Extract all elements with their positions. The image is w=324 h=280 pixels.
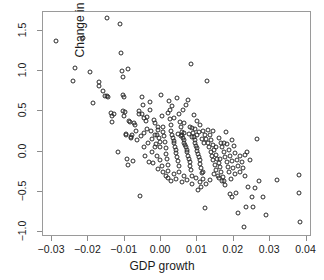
data-point: [188, 168, 193, 173]
data-point: [168, 122, 173, 127]
data-point: [207, 177, 212, 182]
data-point: [122, 110, 127, 115]
x-axis-tick: [51, 236, 52, 241]
data-point: [90, 101, 95, 106]
x-axis-tick: [160, 236, 161, 241]
data-point: [175, 96, 180, 101]
data-point: [274, 177, 279, 182]
data-point: [120, 74, 125, 79]
x-axis-tick-label: −0.03: [38, 243, 65, 255]
data-point: [230, 138, 235, 143]
data-point: [202, 205, 207, 210]
data-point: [223, 182, 228, 187]
data-point: [157, 139, 162, 144]
x-axis-tick-label: 0.03: [259, 243, 280, 255]
data-point: [159, 114, 164, 119]
data-point: [160, 124, 165, 129]
data-point: [167, 98, 172, 103]
data-point: [140, 94, 145, 99]
data-point: [172, 115, 177, 120]
data-point: [198, 122, 203, 127]
data-point: [161, 169, 166, 174]
data-point: [162, 134, 167, 139]
data-point: [167, 107, 172, 112]
data-point: [119, 51, 124, 56]
data-point: [183, 102, 188, 107]
data-point: [200, 170, 205, 175]
data-point: [156, 125, 161, 130]
y-axis-tick: [37, 151, 42, 152]
data-point: [158, 158, 163, 163]
data-point: [226, 147, 231, 152]
data-point: [119, 68, 124, 73]
data-point: [159, 93, 164, 98]
data-point: [204, 79, 209, 84]
data-point: [150, 149, 155, 154]
data-point: [125, 163, 130, 168]
y-axis-tick: [37, 70, 42, 71]
y-axis-tick-label: 1.5: [16, 22, 28, 37]
data-point: [241, 166, 246, 171]
data-point: [162, 139, 167, 144]
y-axis-tick: [37, 191, 42, 192]
y-axis-label-wrapper: Change in rate: [9, 11, 23, 236]
data-point: [236, 210, 241, 215]
data-point: [188, 61, 193, 66]
data-point: [143, 153, 148, 158]
data-point: [245, 185, 250, 190]
data-point: [234, 191, 239, 196]
data-point: [297, 190, 302, 195]
data-point: [105, 15, 110, 20]
data-point: [223, 130, 228, 135]
x-axis-tick: [196, 236, 197, 241]
data-point: [228, 176, 233, 181]
data-point: [244, 205, 249, 210]
y-axis-tick: [37, 30, 42, 31]
data-point: [231, 143, 236, 148]
data-point: [210, 128, 215, 133]
data-point: [122, 95, 127, 100]
data-point: [133, 129, 138, 134]
data-point: [257, 178, 262, 183]
data-point: [298, 220, 303, 225]
data-point: [242, 224, 247, 229]
x-axis-label: GDP growth: [0, 259, 324, 273]
x-axis-tick: [233, 236, 234, 241]
data-point: [151, 160, 156, 165]
data-point: [130, 159, 135, 164]
data-point: [260, 194, 265, 199]
data-point: [146, 141, 151, 146]
data-point: [202, 141, 207, 146]
y-axis-tick-label: 0.0: [16, 143, 28, 158]
data-point: [239, 160, 244, 165]
scatter-plot-figure: GDP growth Change in rate −0.03−0.02−0.0…: [0, 0, 324, 280]
y-axis-tick-label: 1.0: [16, 63, 28, 78]
data-point: [244, 149, 249, 154]
data-point: [140, 102, 145, 107]
x-axis-tick: [124, 236, 125, 241]
x-axis-tick-label: 0.02: [222, 243, 243, 255]
y-axis-tick: [37, 110, 42, 111]
data-point: [132, 122, 137, 127]
data-point: [263, 213, 268, 218]
data-point: [176, 164, 181, 169]
data-point: [148, 107, 153, 112]
data-point: [255, 137, 260, 142]
data-point: [186, 97, 191, 102]
data-point: [296, 172, 301, 177]
data-point: [165, 163, 170, 168]
data-point: [118, 22, 123, 27]
y-axis-tick: [37, 231, 42, 232]
data-point: [250, 194, 255, 199]
y-axis-tick-label: 0.5: [16, 103, 28, 118]
data-point: [184, 177, 189, 182]
data-point: [147, 100, 152, 105]
data-point: [157, 145, 162, 150]
data-point: [191, 113, 196, 118]
x-axis-tick: [87, 236, 88, 241]
data-point: [143, 118, 148, 123]
data-point: [138, 193, 143, 198]
data-point: [221, 141, 226, 146]
data-point: [218, 156, 223, 161]
x-axis-tick-label: 0.01: [186, 243, 207, 255]
